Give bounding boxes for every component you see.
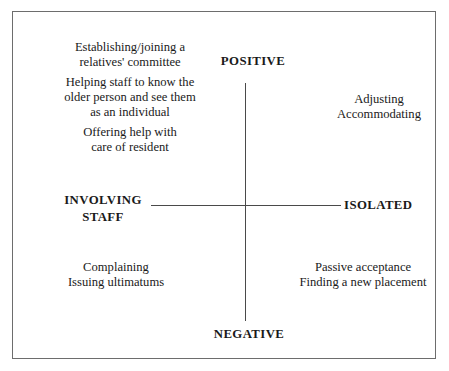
axis-label-negative: NEGATIVE [199, 326, 299, 343]
axis-label-involving-staff-line-2: STAFF [51, 209, 155, 226]
quadrant-involving-positive: Establishing/joining a relatives' commit… [27, 40, 233, 156]
quadrant-involving-positive-paragraph-2: Helping staff to know the older person a… [27, 75, 233, 121]
axis-label-involving-staff: INVOLVING STAFF [51, 192, 155, 227]
quadrant-diagram: POSITIVE NEGATIVE INVOLVING STAFF ISOLAT… [0, 0, 449, 371]
axis-label-isolated: ISOLATED [344, 197, 430, 214]
vertical-axis-line [245, 83, 246, 321]
quadrant-involving-positive-paragraph-1: Establishing/joining a relatives' commit… [27, 40, 233, 71]
quadrant-isolated-positive: Adjusting Accommodating [309, 92, 449, 123]
quadrant-involving-positive-paragraph-3: Offering help with care of resident [27, 125, 233, 156]
axis-label-involving-staff-line-1: INVOLVING [51, 192, 155, 209]
diagram-frame: POSITIVE NEGATIVE INVOLVING STAFF ISOLAT… [12, 11, 436, 359]
horizontal-axis-line [151, 205, 341, 206]
quadrant-isolated-negative: Passive acceptance Finding a new placeme… [277, 260, 449, 291]
quadrant-involving-negative: Complaining Issuing ultimatums [31, 260, 201, 291]
